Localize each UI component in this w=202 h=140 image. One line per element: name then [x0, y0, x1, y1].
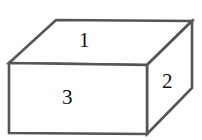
right-face-label: 2 [162, 69, 173, 93]
top-face-label: 1 [79, 28, 90, 52]
front-face [9, 63, 147, 134]
front-face-label: 3 [62, 85, 73, 109]
box-diagram: 1 2 3 [0, 0, 202, 140]
